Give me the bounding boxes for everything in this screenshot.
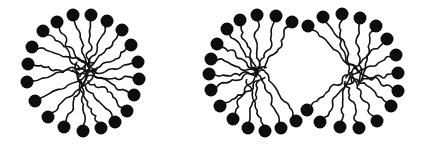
head-group	[77, 125, 90, 138]
head-group	[203, 68, 216, 81]
head-group	[132, 56, 145, 69]
head-group	[353, 122, 366, 135]
head-group	[385, 100, 398, 113]
head-group	[275, 122, 288, 135]
head-group	[109, 116, 122, 129]
head-group	[302, 20, 315, 33]
head-group	[314, 116, 327, 129]
head-group	[370, 20, 383, 33]
head-group	[58, 121, 71, 134]
head-group	[95, 122, 108, 135]
head-group	[205, 53, 218, 66]
head-group	[336, 8, 349, 21]
head-group	[392, 85, 405, 98]
head-group	[51, 16, 64, 29]
head-group	[214, 100, 227, 113]
head-group	[270, 10, 283, 23]
head-group	[259, 125, 272, 138]
head-group	[22, 58, 35, 71]
head-group	[334, 121, 347, 134]
head-group	[371, 115, 384, 128]
head-group	[121, 105, 134, 118]
head-group	[242, 122, 255, 135]
head-group	[125, 39, 138, 52]
head-group	[290, 115, 303, 128]
head-group	[354, 12, 367, 25]
head-group	[85, 9, 98, 22]
head-group	[101, 15, 114, 28]
head-group	[227, 113, 240, 126]
head-group	[67, 9, 80, 22]
head-group	[26, 41, 39, 54]
head-group	[301, 104, 314, 117]
head-group	[234, 14, 247, 27]
head-group	[381, 33, 394, 46]
head-group	[317, 11, 330, 24]
head-group	[286, 16, 299, 29]
head-group	[42, 111, 55, 124]
head-group	[21, 76, 34, 89]
head-group	[37, 25, 50, 38]
micelle-diagram	[0, 0, 422, 154]
head-group	[205, 84, 218, 97]
head-group	[128, 89, 141, 102]
head-group	[390, 49, 403, 62]
head-group	[221, 23, 234, 36]
head-group	[251, 9, 264, 22]
head-group	[392, 67, 405, 80]
head-group	[133, 73, 146, 86]
head-group	[211, 38, 224, 51]
head-group	[116, 24, 129, 37]
head-group	[29, 95, 42, 108]
